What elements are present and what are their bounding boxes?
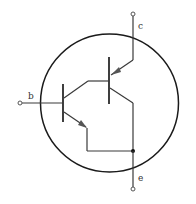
darlington-diagram: c b e	[0, 0, 196, 204]
driver-emitter-arrow-icon	[78, 120, 87, 128]
collector-terminal	[131, 12, 135, 16]
base-terminal	[18, 101, 22, 105]
driver-collector-lead	[64, 81, 109, 98]
base-label: b	[28, 91, 34, 101]
emitter-label: e	[138, 173, 143, 183]
collector-lead	[111, 16, 133, 75]
collector-arrow-icon	[111, 67, 121, 75]
emitter-terminal	[131, 187, 135, 191]
collector-label: c	[138, 21, 143, 31]
output-emitter-lead	[110, 88, 133, 151]
driver-emitter-lead	[64, 112, 133, 151]
